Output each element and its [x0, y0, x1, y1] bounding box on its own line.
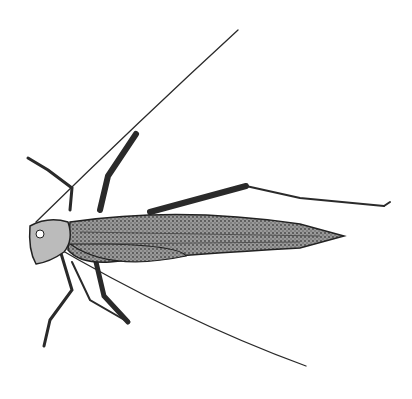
head [30, 220, 71, 264]
antenna-upper [36, 30, 238, 222]
eye [36, 230, 44, 238]
grasshopper-drawing [0, 0, 412, 399]
sketch-canvas [0, 0, 412, 399]
